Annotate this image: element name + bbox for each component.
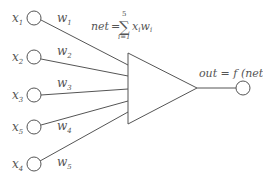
input-label-4: x5 bbox=[12, 120, 24, 136]
input-label-2: x2 bbox=[12, 50, 24, 66]
connection-line-3 bbox=[41, 89, 128, 95]
svg-text:5: 5 bbox=[122, 10, 126, 18]
connection-line-2 bbox=[41, 59, 128, 76]
input-node-1 bbox=[27, 11, 41, 25]
input-node-2 bbox=[27, 50, 41, 64]
svg-text:net: net bbox=[91, 20, 110, 33]
input-node-4 bbox=[27, 120, 41, 134]
net-equation: net = ∑ 5 i=1 xiwi bbox=[91, 10, 152, 41]
svg-text:i=1: i=1 bbox=[118, 33, 131, 41]
input-node-3 bbox=[27, 88, 41, 102]
input-node-5 bbox=[27, 157, 41, 171]
weight-label-3: w3 bbox=[57, 76, 72, 92]
weight-label-4: w4 bbox=[57, 119, 72, 135]
summation-triangle bbox=[128, 53, 197, 124]
connection-line-4 bbox=[41, 101, 128, 125]
input-label-1: x1 bbox=[12, 11, 23, 27]
weight-label-1: w1 bbox=[57, 11, 72, 27]
weight-label-2: w2 bbox=[57, 44, 72, 60]
neuron-diagram: x1 x2 x3 x5 x4 w1 w2 w3 w4 w5 net = ∑ 5 … bbox=[0, 0, 263, 179]
input-label-3: x3 bbox=[12, 88, 24, 104]
weight-label-5: w5 bbox=[57, 155, 72, 171]
output-node bbox=[236, 81, 250, 95]
connection-line-5 bbox=[40, 112, 128, 161]
input-label-5: x4 bbox=[12, 157, 23, 173]
output-equation: out = f (net) bbox=[199, 67, 263, 80]
svg-text:xiwi: xiwi bbox=[132, 20, 152, 34]
